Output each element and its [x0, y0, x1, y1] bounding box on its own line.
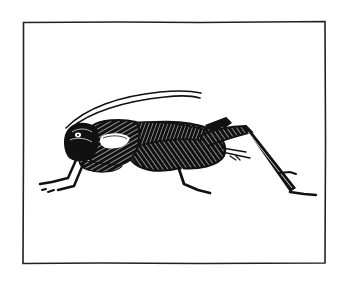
illustration: cricket — [0, 0, 349, 282]
head — [65, 124, 98, 162]
middle-leg — [178, 166, 210, 193]
front-legs — [40, 160, 84, 192]
cricket-drawing — [0, 0, 349, 282]
